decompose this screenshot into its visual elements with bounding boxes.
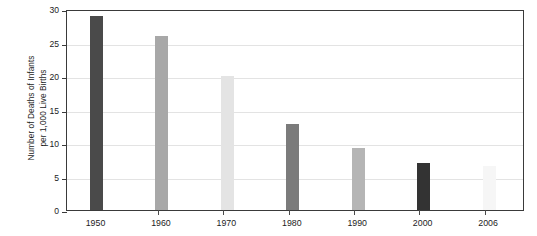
bar: [221, 76, 234, 210]
bar: [417, 163, 430, 210]
bar: [352, 148, 365, 210]
x-tick-label: 1990: [347, 218, 367, 228]
x-tick-label: 2006: [478, 218, 498, 228]
x-tick-label: 1950: [86, 218, 106, 228]
y-tick-label: 0: [54, 206, 59, 216]
x-tick-label: 1970: [217, 218, 237, 228]
x-tick-label: 1960: [151, 218, 171, 228]
y-axis-tick-labels: 051015202530: [33, 0, 59, 236]
x-axis-tick-labels: 1950196019701980199020002006: [66, 215, 524, 235]
bar-chart: Number of Deaths of Infants per 1,000 Li…: [0, 0, 537, 236]
y-tick-mark: [62, 212, 67, 213]
bar: [90, 16, 103, 210]
x-tick-label: 2000: [413, 218, 433, 228]
y-tick-label: 10: [49, 139, 59, 149]
y-axis-title: Number of Deaths of Infants per 1,000 Li…: [0, 0, 32, 215]
y-tick-label: 25: [49, 39, 59, 49]
bar-series: [67, 11, 523, 210]
x-tick-label: 1980: [282, 218, 302, 228]
y-tick-label: 30: [49, 5, 59, 15]
bar: [483, 166, 496, 210]
bar: [155, 36, 168, 210]
bar: [286, 124, 299, 210]
y-tick-label: 15: [49, 106, 59, 116]
plot-area: [66, 10, 524, 211]
y-tick-label: 5: [54, 173, 59, 183]
y-tick-label: 20: [49, 72, 59, 82]
